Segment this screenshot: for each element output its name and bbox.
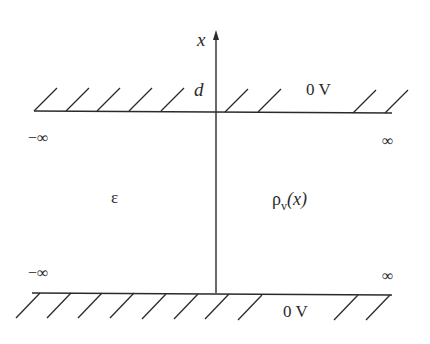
x-axis-arrow-icon bbox=[213, 30, 219, 40]
top-plate-potential: 0 V bbox=[306, 81, 331, 98]
permittivity-label: ε bbox=[111, 189, 118, 206]
charge-density-symbol: ρ bbox=[272, 189, 281, 209]
left-limit-top: −∞ bbox=[28, 130, 48, 146]
charge-density-label: ρv(x) bbox=[272, 190, 307, 212]
left-limit-bottom: −∞ bbox=[28, 265, 48, 281]
charge-density-argument: (x) bbox=[287, 189, 307, 209]
bottom-plate bbox=[16, 293, 392, 320]
axis-label: x bbox=[197, 30, 205, 49]
diagram-canvas bbox=[0, 0, 430, 344]
top-plate-position-label: d bbox=[194, 80, 204, 99]
top-plate bbox=[34, 88, 408, 113]
right-limit-top: ∞ bbox=[382, 133, 393, 149]
bottom-plate-potential: 0 V bbox=[283, 303, 308, 320]
right-limit-bottom: ∞ bbox=[382, 268, 393, 284]
